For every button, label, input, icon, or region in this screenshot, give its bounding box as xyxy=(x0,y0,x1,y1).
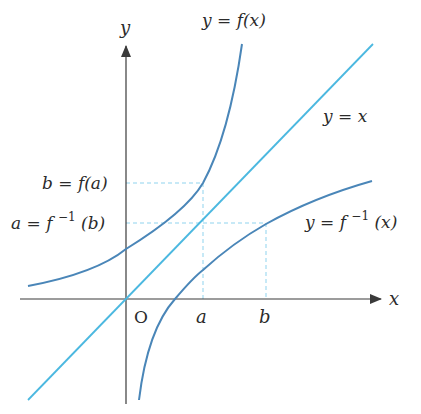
x-axis-label: x xyxy=(389,288,399,309)
a-eq-prefix: a = f xyxy=(11,213,55,233)
y-axis-label: y xyxy=(119,17,131,38)
a-eq-suffix: (b) xyxy=(81,213,105,233)
tick-a-label: a xyxy=(196,306,207,327)
origin-label: O xyxy=(134,307,148,327)
f-inverse-prefix: y = f xyxy=(304,212,349,232)
a-equals-f-inverse-b-label: a = f −1 (b) xyxy=(11,205,105,233)
f-inverse-curve-label: y = f −1 (x) xyxy=(304,204,397,232)
tick-b-label: b xyxy=(259,306,271,327)
f-curve xyxy=(28,44,242,286)
f-inverse-suffix: (x) xyxy=(374,212,397,232)
b-equals-f-a-label: b = f(a) xyxy=(42,173,108,193)
f-inverse-sup: −1 xyxy=(351,209,369,223)
inverse-function-diagram: y x O a b y = f(x) y = x y = f −1 (x) b … xyxy=(0,0,421,414)
guide-lines xyxy=(126,183,266,299)
f-curve-label: y = f(x) xyxy=(201,10,266,30)
identity-line-label: y = x xyxy=(322,106,368,126)
a-eq-sup: −1 xyxy=(58,210,76,224)
